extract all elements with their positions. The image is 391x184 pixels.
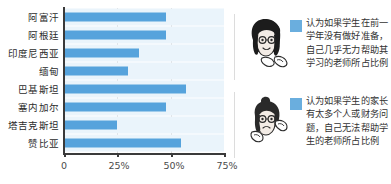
category-axis-labels: 阿富汗 阿根廷 印度尼西亚 缅甸 巴基斯坦 塞内加尔 塔吉克斯坦 赞比亚	[0, 8, 61, 152]
legend-swatch	[290, 98, 302, 110]
bar	[64, 139, 181, 148]
bar-chart: 阿富汗 阿根廷 印度尼西亚 缅甸 巴基斯坦 塞内加尔 塔吉克斯坦 赞比亚	[0, 0, 232, 184]
x-tick-label: 0	[61, 160, 67, 171]
chart-figure: 阿富汗 阿根廷 印度尼西亚 缅甸 巴基斯坦 塞内加尔 塔吉克斯坦 赞比亚	[0, 0, 391, 184]
bar	[64, 31, 166, 40]
category-label: 塞内加尔	[18, 100, 59, 114]
category-label: 缅甸	[39, 64, 59, 78]
plot-area: 0 25% 50% 75%	[64, 8, 224, 152]
category-label: 阿富汗	[28, 10, 59, 24]
teacher-avatar-bob-hair-icon	[242, 14, 290, 72]
bar	[64, 13, 166, 22]
legend-swatch	[290, 20, 302, 32]
category-label: 阿根廷	[28, 28, 59, 42]
x-tick-0	[64, 153, 66, 157]
x-tick-25	[117, 153, 119, 157]
y-axis-line	[63, 7, 65, 153]
x-tick-label: 50%	[163, 160, 184, 171]
category-label: 赞比亚	[28, 136, 59, 150]
x-tick-label: 25%	[108, 160, 129, 171]
bar	[64, 103, 166, 112]
category-label: 印度尼西亚	[8, 46, 59, 60]
legend-item: 认为如果学生的家长有太多个人或财务问题，自己无法帮助学生的老师所占比例	[232, 86, 391, 178]
legend-item: 认为如果学生在前一学年没有做好准备，自己几乎无力帮助其学习的老师所占比例	[232, 8, 391, 88]
legend-label: 认为如果学生的家长有太多个人或财务问题，自己无法帮助学生的老师所占比例	[306, 94, 390, 148]
bar	[64, 67, 128, 76]
x-tick-50	[171, 153, 173, 157]
legend-label: 认为如果学生在前一学年没有做好准备，自己几乎无力帮助其学习的老师所占比例	[306, 16, 390, 70]
x-axis-line	[63, 153, 225, 155]
bar	[64, 121, 117, 130]
category-label: 塔吉克斯坦	[8, 118, 59, 132]
x-tick-75	[224, 153, 226, 157]
category-label: 巴基斯坦	[18, 82, 59, 96]
bar	[64, 49, 139, 58]
chart-legend: 认为如果学生在前一学年没有做好准备，自己几乎无力帮助其学习的老师所占比例	[232, 0, 391, 184]
teacher-avatar-bun-hair-icon	[242, 92, 290, 150]
bar	[64, 85, 186, 94]
